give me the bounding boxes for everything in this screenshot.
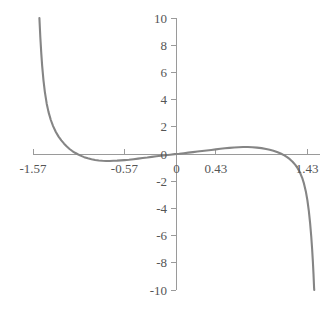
y-tick-label: -6 — [156, 228, 167, 243]
y-tick-label: 0 — [161, 147, 168, 162]
x-tick-label: -0.57 — [111, 161, 139, 176]
x-tick-label: 1.43 — [296, 161, 319, 176]
y-tick-label: -8 — [156, 255, 167, 270]
y-tick-label: 8 — [161, 38, 168, 53]
function-plot: -1.57-0.5700.431.431086420-2-4-6-8-10 — [0, 0, 328, 311]
x-tick-label: -1.57 — [19, 161, 47, 176]
x-tick-label: 0 — [173, 161, 180, 176]
x-tick-label: 0.43 — [204, 161, 227, 176]
y-tick-label: 6 — [161, 65, 168, 80]
y-tick-label: -2 — [156, 174, 167, 189]
y-tick-label: 10 — [154, 11, 167, 26]
y-tick-label: -10 — [150, 283, 167, 298]
plot-canvas: -1.57-0.5700.431.431086420-2-4-6-8-10 — [0, 0, 328, 311]
y-tick-label: 4 — [161, 92, 168, 107]
y-tick-label: 2 — [161, 119, 168, 134]
y-tick-label: -4 — [156, 201, 167, 216]
